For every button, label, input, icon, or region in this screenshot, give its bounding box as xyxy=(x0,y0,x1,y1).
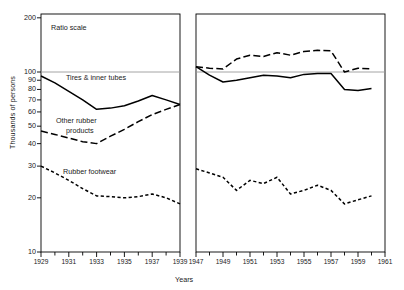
y-tick-label: 50 xyxy=(14,122,36,129)
panel-frame-left xyxy=(41,14,180,252)
series-line-tires-inner-tubes-right xyxy=(196,67,372,91)
series-label-other-rubber-2: products xyxy=(66,127,94,135)
x-tick-label: 1961 xyxy=(372,259,398,266)
y-tick-label: 60 xyxy=(14,108,36,115)
y-tick-label: 200 xyxy=(14,14,36,21)
series-line-rubber-footwear-right xyxy=(196,169,372,204)
panel-frame-right xyxy=(196,14,385,252)
x-tick-label: 1955 xyxy=(291,259,317,266)
x-tick-label: 1947 xyxy=(183,259,209,266)
plot-area xyxy=(0,0,404,290)
y-tick-label: 20 xyxy=(14,194,36,201)
x-tick-label: 1935 xyxy=(111,259,137,266)
chart-figure: Thousands of persons Years 1020304050607… xyxy=(0,0,404,290)
y-tick-label: 40 xyxy=(14,140,36,147)
x-tick-label: 1959 xyxy=(345,259,371,266)
y-tick-label: 30 xyxy=(14,162,36,169)
x-tick-label: 1951 xyxy=(237,259,263,266)
x-tick-label: 1929 xyxy=(28,259,54,266)
y-tick-label: 70 xyxy=(14,96,36,103)
x-axis-title: Years xyxy=(175,275,193,284)
series-line-other-rubber-products-right xyxy=(196,50,372,72)
x-tick-label: 1957 xyxy=(318,259,344,266)
series-label-other-rubber-1: Other rubber xyxy=(56,117,97,125)
x-tick-label: 1953 xyxy=(264,259,290,266)
y-tick-label: 10 xyxy=(14,248,36,255)
y-tick-label: 90 xyxy=(14,76,36,83)
y-tick-label: 80 xyxy=(14,85,36,92)
series-label-footwear: Rubber footwear xyxy=(63,168,116,176)
annotation-ratio-scale: Ratio scale xyxy=(51,24,87,32)
x-tick-label: 1937 xyxy=(139,259,165,266)
x-tick-label: 1931 xyxy=(56,259,82,266)
y-tick-label: 100 xyxy=(14,68,36,75)
x-tick-label: 1933 xyxy=(84,259,110,266)
x-tick-label: 1949 xyxy=(210,259,236,266)
series-label-tires: Tires & inner tubes xyxy=(66,74,126,82)
